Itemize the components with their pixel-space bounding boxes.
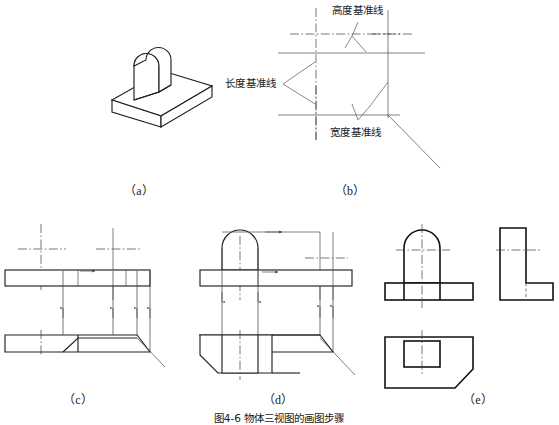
height-datum-label: 高度基准线	[332, 4, 384, 16]
width-datum-label: 宽度基准线	[330, 126, 382, 138]
panel-d-front-view-slab	[200, 270, 352, 286]
figure-root: （a） 高度基准线	[0, 0, 559, 425]
figure-caption: 图4-6 物体三视图的画图步骤	[214, 412, 345, 424]
panel-c-front-view-slab	[5, 270, 150, 286]
panel-d-label: （d）	[263, 393, 293, 407]
length-datum-label: 长度基准线	[225, 77, 277, 89]
panel-b-label: （b）	[335, 184, 365, 198]
technical-drawing-canvas: （a） 高度基准线	[0, 0, 559, 425]
panel-c-label: （c）	[63, 393, 92, 407]
panel-e-label: （e）	[463, 393, 492, 407]
panel-e-front-slab	[385, 283, 473, 300]
canvas-background	[0, 0, 559, 425]
panel-a-label: （a）	[124, 184, 153, 198]
